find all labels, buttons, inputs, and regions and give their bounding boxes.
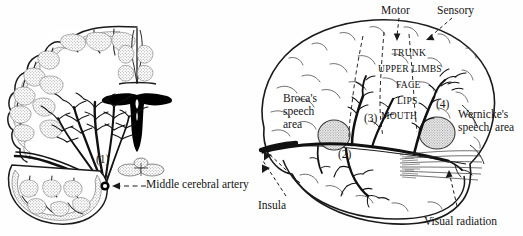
face-label: FACE (396, 80, 421, 90)
marker-1-label: (1) (96, 153, 109, 165)
leader-middle-cerebral-artery (112, 182, 146, 189)
lips-label: LIPS (397, 96, 418, 106)
middle-cerebral-artery-label: Middle cerebral artery (146, 178, 249, 190)
middle-cerebral-artery-origin (100, 181, 109, 190)
left-temporal-lobe (8, 165, 107, 224)
visual-radiation-label: Visual radiation (424, 215, 497, 227)
trunk-label: TRUNK (392, 48, 426, 58)
upper-limbs-label: UPPER LIMBS (378, 64, 442, 74)
sensory-label: Sensory (437, 4, 474, 16)
left-coronal-hemisphere (8, 26, 172, 224)
marker-2-label: (2) (338, 148, 351, 160)
brocas-speech-area-label: Broca's speech area (283, 92, 317, 131)
motor-label: Motor (381, 4, 410, 16)
marker-4-label: (4) (436, 98, 449, 110)
marker-3-label: (3) (364, 112, 377, 124)
wernickes-speech-area-label: Wernicke's speech area (458, 108, 514, 134)
figure-canvas: (1) Middle cerebral artery Motor Sensory… (0, 0, 523, 236)
insula-label: Insula (258, 199, 286, 211)
mouth-label: MOUTH (381, 111, 417, 121)
